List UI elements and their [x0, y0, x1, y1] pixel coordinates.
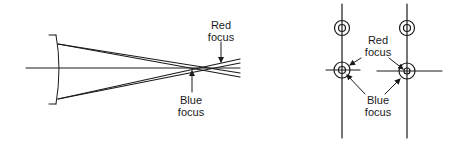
- right-blue-focus-label-line1: Blue: [367, 94, 389, 106]
- right-panel-focus-views: Red focus Blue focus: [326, 4, 442, 138]
- right-red-focus-arrow-left: [350, 58, 361, 65]
- chromatic-aberration-diagram: Red focus Blue focus: [0, 0, 463, 141]
- left-blue-focus-label-line1: Blue: [180, 94, 202, 106]
- lens-curve: [56, 35, 59, 104]
- left-blue-focus-label-line2: focus: [178, 106, 205, 118]
- diagram-svg: Red focus Blue focus: [0, 0, 463, 141]
- right-red-focus-label-line1: Red: [368, 34, 388, 46]
- left-panel-ray-diagram: Red focus Blue focus: [26, 19, 240, 118]
- right-blue-focus-arrow-right: [385, 79, 400, 94]
- right-blue-focus-label-line2: focus: [365, 106, 392, 118]
- left-red-focus-label-line1: Red: [211, 19, 231, 31]
- right-red-focus-label-line2: focus: [365, 46, 392, 58]
- right-blue-focus-arrow-left: [347, 75, 365, 94]
- left-red-focus-label-line2: focus: [208, 31, 235, 43]
- right-red-focus-arrow-right: [389, 58, 403, 69]
